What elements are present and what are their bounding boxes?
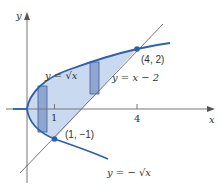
x-tick-label-1: 1 — [51, 112, 57, 123]
x-axis-arrow-icon — [207, 106, 215, 112]
x-tick-label-4: 4 — [134, 113, 140, 124]
point-label-1-neg1: (1, −1) — [65, 129, 94, 140]
point-4-2 — [134, 46, 140, 52]
point-label-4-2: (4, 2) — [141, 54, 164, 65]
y-axis-label: y — [15, 10, 22, 21]
strip-right — [90, 62, 99, 94]
y-axis-arrow-icon — [24, 12, 30, 20]
curve-label-neg-sqrt-x: y = − √x — [106, 167, 151, 178]
x-axis-label: x — [209, 114, 215, 125]
point-1-neg1 — [52, 136, 58, 142]
diagram-canvas: y x 1 4 y = √x y = x − 2 y = − √x (4, 2)… — [0, 0, 221, 187]
region-between-curves-diagram: y x 1 4 y = √x y = x − 2 y = − √x (4, 2)… — [0, 0, 221, 187]
curve-label-line: y = x − 2 — [111, 72, 159, 83]
curve-label-sqrt-x: y = √x — [44, 70, 78, 81]
